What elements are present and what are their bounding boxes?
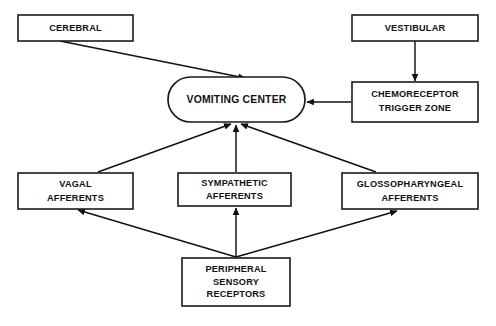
node-chemoreceptor-trigger-zone-label-line-2: TRIGGER ZONE (379, 103, 451, 113)
node-sympathetic-afferents-label-line-1: SYMPATHETIC (201, 178, 268, 188)
node-vestibular-label-line-1: VESTIBULAR (385, 23, 446, 33)
node-vestibular[interactable]: VESTIBULAR (352, 15, 478, 41)
edge-layer (60, 41, 415, 257)
node-cerebral-label-line-1: CEREBRAL (49, 23, 102, 33)
node-vagal-afferents-label-line-2: AFFERENTS (47, 193, 104, 203)
node-glossopharyngeal-afferents-label-line-2: AFFERENTS (382, 193, 439, 203)
node-vomiting-center[interactable]: VOMITING CENTER (168, 77, 305, 122)
node-glossopharyngeal-afferents-label-line-1: GLOSSOPHARYNGEAL (357, 179, 464, 189)
node-vomiting-center-label-line-1: VOMITING CENTER (187, 94, 287, 105)
edge-vagal-afferents-to-vomiting-center (98, 124, 231, 172)
node-chemoreceptor-trigger-zone[interactable]: CHEMORECEPTOR TRIGGER ZONE (352, 82, 478, 122)
node-peripheral-sensory-receptors[interactable]: PERIPHERAL SENSORY RECEPTORS (182, 258, 290, 306)
node-sympathetic-afferents[interactable]: SYMPATHETIC AFFERENTS (178, 173, 291, 206)
node-chemoreceptor-trigger-zone-label-line-1: CHEMORECEPTOR (371, 89, 459, 99)
node-peripheral-sensory-receptors-label-line-1: PERIPHERAL (205, 264, 266, 274)
node-chemoreceptor-trigger-zone-box (352, 82, 478, 122)
edge-cerebral-to-vomiting-center (60, 41, 245, 78)
node-vagal-afferents[interactable]: VAGAL AFFERENTS (18, 173, 133, 209)
node-vagal-afferents-label-line-1: VAGAL (59, 179, 92, 189)
node-peripheral-sensory-receptors-label-line-3: RECEPTORS (207, 289, 266, 299)
node-glossopharyngeal-afferents[interactable]: GLOSSOPHARYNGEAL AFFERENTS (342, 173, 478, 209)
diagram-canvas: CEREBRAL VESTIBULAR VOMITING CENTER CHEM… (0, 0, 496, 326)
edge-glossopharyngeal-afferents-to-vomiting-center (241, 124, 376, 172)
node-peripheral-sensory-receptors-label-line-2: SENSORY (213, 277, 259, 287)
edge-peripheral-sensory-receptors-to-vagal-afferents (78, 210, 236, 257)
vomiting-center-diagram: CEREBRAL VESTIBULAR VOMITING CENTER CHEM… (0, 0, 496, 326)
node-sympathetic-afferents-label-line-2: AFFERENTS (206, 191, 263, 201)
edge-peripheral-sensory-receptors-to-glossopharyngeal-afferents (236, 211, 397, 257)
node-cerebral[interactable]: CEREBRAL (18, 15, 133, 41)
